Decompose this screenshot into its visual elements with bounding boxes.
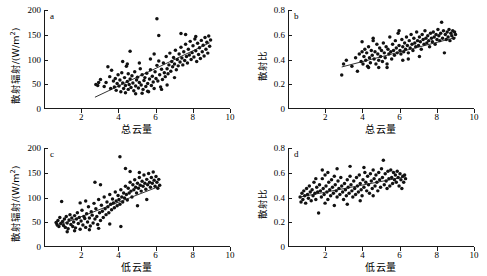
x-axis-tick-label: 8 [181, 250, 205, 260]
y-axis-tick-mark [44, 35, 48, 36]
scatter-point [131, 183, 134, 186]
scatter-point [454, 33, 457, 36]
scatter-point [151, 80, 154, 83]
scatter-point [377, 66, 380, 69]
scatter-point [120, 71, 123, 74]
scatter-point [72, 220, 75, 223]
scatter-point [76, 211, 79, 214]
panel-b-plot-area [288, 10, 474, 109]
scatter-point [397, 44, 400, 47]
scatter-point [128, 170, 131, 173]
scatter-point [136, 204, 139, 207]
scatter-point [415, 30, 418, 33]
scatter-point [395, 46, 398, 49]
panel-c-scatter-svg [45, 148, 230, 246]
scatter-point [160, 88, 163, 91]
scatter-point [374, 173, 377, 176]
scatter-point [386, 47, 389, 50]
panel-a: a 散射辐射/(W/m2) 总云量 050100150200246810 [0, 0, 243, 138]
scatter-point [182, 50, 185, 53]
scatter-point [66, 227, 69, 230]
x-axis-tick-mark [474, 109, 475, 113]
scatter-point [368, 192, 371, 195]
scatter-point [342, 198, 345, 201]
y-axis-tick-label: 150 [0, 30, 41, 40]
scatter-point [394, 173, 397, 176]
scatter-point [90, 213, 93, 216]
scatter-point [138, 176, 141, 179]
scatter-point [401, 58, 404, 61]
scatter-point [346, 178, 349, 181]
scatter-point [164, 55, 167, 58]
scatter-point [347, 192, 350, 195]
scatter-point [349, 183, 352, 186]
scatter-point [128, 49, 131, 52]
scatter-point [151, 182, 154, 185]
scatter-point [378, 178, 381, 181]
scatter-point [102, 195, 105, 198]
scatter-point [99, 183, 102, 186]
scatter-point [171, 65, 174, 68]
scatter-point [395, 181, 398, 184]
scatter-point [350, 189, 353, 192]
scatter-point [176, 64, 179, 67]
scatter-point [88, 228, 91, 231]
scatter-point [309, 199, 312, 202]
scatter-point [401, 45, 404, 48]
scatter-point [114, 89, 117, 92]
scatter-point [87, 205, 90, 208]
scatter-point [131, 81, 134, 84]
scatter-point [400, 187, 403, 190]
scatter-point [139, 189, 142, 192]
scatter-point [385, 66, 388, 69]
scatter-point [428, 45, 431, 48]
x-axis-tick-mark [81, 247, 82, 251]
panel-a-plot-area [44, 10, 230, 109]
scatter-point [147, 172, 150, 175]
scatter-point [127, 83, 130, 86]
scatter-point [127, 186, 130, 189]
scatter-point [58, 216, 61, 219]
scatter-point [150, 176, 153, 179]
scatter-point [408, 39, 411, 42]
x-axis-tick-mark [81, 109, 82, 113]
y-axis-tick-label: 0.6 [244, 168, 285, 178]
scatter-point [379, 185, 382, 188]
scatter-point [352, 179, 355, 182]
y-axis-tick-mark [44, 222, 48, 223]
x-axis-tick-mark [118, 109, 119, 113]
scatter-point [146, 90, 149, 93]
scatter-point [188, 53, 191, 56]
scatter-point [340, 184, 343, 187]
scatter-point [209, 38, 212, 41]
scatter-point [383, 183, 386, 186]
scatter-point [359, 188, 362, 191]
panel-a-x-axis-title: 总云量 [44, 121, 230, 136]
scatter-point [319, 189, 322, 192]
scatter-point [420, 47, 423, 50]
scatter-point [403, 41, 406, 44]
scatter-point [116, 73, 119, 76]
scatter-point [301, 198, 304, 201]
y-axis-tick-label: 50 [0, 217, 41, 227]
scatter-figure: a 散射辐射/(W/m2) 总云量 050100150200246810 b 散… [0, 0, 487, 276]
scatter-point [126, 62, 129, 65]
scatter-point [361, 62, 364, 65]
scatter-point [382, 159, 385, 162]
scatter-point [187, 47, 190, 50]
scatter-point [165, 67, 168, 70]
panel-c: c 散射辐射/(W/m2) 低云量 050100150200246810 [0, 138, 243, 276]
scatter-point [155, 181, 158, 184]
y-axis-tick-mark [44, 84, 48, 85]
scatter-point [367, 45, 370, 48]
scatter-point [95, 215, 98, 218]
y-axis-title-text: 散射辐射/(W/m [10, 174, 21, 243]
scatter-point [114, 190, 117, 193]
scatter-point [65, 215, 68, 218]
y-axis-tick-mark [288, 10, 292, 11]
y-axis-tick-mark [44, 198, 48, 199]
y-axis-tick-mark [44, 60, 48, 61]
scatter-point [179, 46, 182, 49]
x-axis-tick-mark [437, 109, 438, 113]
panel-b-x-axis-title: 总云量 [288, 121, 474, 136]
